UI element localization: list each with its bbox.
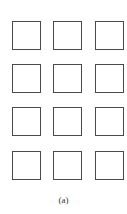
grid-cell-r1-c1 <box>12 21 41 50</box>
grid-cell-r2-c3 <box>95 64 124 93</box>
grid-cell-r1-c2 <box>53 21 82 50</box>
grid-cell-r3-c1 <box>12 107 41 136</box>
grid-cell-r3-c3 <box>95 107 124 136</box>
grid-cell-r2-c1 <box>12 64 41 93</box>
grid-cell-r4-c3 <box>95 151 124 180</box>
figure-caption: (a) <box>0 194 127 206</box>
grid-cell-r1-c3 <box>95 21 124 50</box>
grid-cell-r3-c2 <box>53 107 82 136</box>
grid-cell-r4-c2 <box>53 151 82 180</box>
square-grid-figure: (a) <box>0 0 127 214</box>
grid-cell-r2-c2 <box>53 64 82 93</box>
grid-cell-r4-c1 <box>12 151 41 180</box>
